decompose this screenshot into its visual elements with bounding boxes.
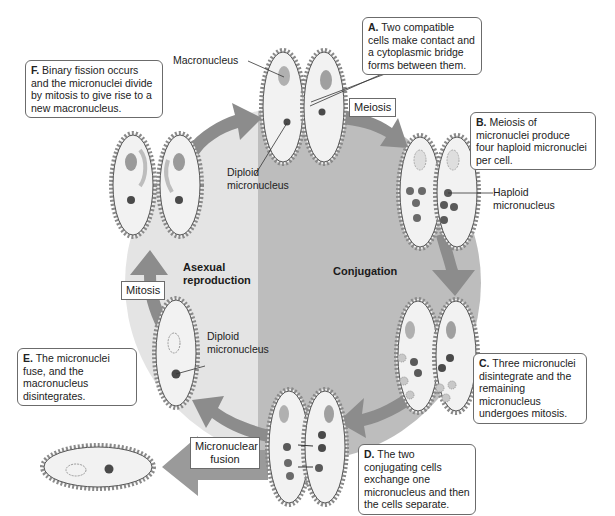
- tag-line: fusion: [195, 453, 255, 466]
- macronucleus: [173, 153, 185, 171]
- cell-separated: [42, 445, 154, 489]
- micronucleus: [175, 196, 183, 204]
- region-label-asexual-line1: Asexual: [183, 261, 251, 274]
- step-letter: F.: [31, 64, 39, 76]
- micronucleus: [284, 119, 291, 126]
- tag-mitosis: Mitosis: [121, 281, 165, 300]
- step-letter: B.: [476, 116, 487, 128]
- label-line: Diploid: [207, 330, 269, 343]
- callout-c: C. Three micronuclei disintegrate and th…: [473, 353, 587, 424]
- step-letter: E.: [23, 352, 33, 364]
- label-line: Diploid: [227, 166, 289, 179]
- callout-b: B. Meiosis of micronuclei produce four h…: [470, 112, 596, 170]
- label-diploid-micronucleus-left: Diploid micronucleus: [207, 330, 269, 355]
- tag-line: Micronuclear: [195, 440, 255, 453]
- cell-e: [154, 298, 198, 408]
- macronucleus: [125, 153, 137, 171]
- macronucleus: [320, 70, 332, 90]
- label-line: Haploid: [493, 186, 555, 199]
- label-macronucleus: Macronucleus: [173, 54, 238, 67]
- step-letter: C.: [479, 357, 490, 369]
- label-diploid-micronucleus-top: Diploid micronucleus: [227, 166, 289, 191]
- callout-f: F. Binary fission occurs and the micronu…: [25, 60, 163, 118]
- step-letter: D.: [364, 448, 375, 460]
- label-line: micronucleus: [493, 199, 555, 212]
- callout-d: D. The two conjugating cells exchange on…: [358, 444, 476, 515]
- step-text: Binary fission occurs and the micronucle…: [31, 64, 152, 114]
- callout-e: E. The micronuclei fuse, and the macronu…: [17, 348, 137, 406]
- macronucleus: [278, 66, 290, 86]
- label-haploid-micronucleus: Haploid micronucleus: [493, 186, 555, 211]
- label-line: micronucleus: [207, 343, 269, 356]
- micronucleus: [127, 196, 135, 204]
- step-text: Meiosis of micronuclei produce four hapl…: [476, 116, 587, 166]
- callout-a: A. Two compatible cells make contact and…: [362, 17, 482, 75]
- step-letter: A.: [368, 21, 379, 33]
- step-text: Three micronuclei disintegrate and the r…: [479, 357, 576, 419]
- tag-meiosis: Meiosis: [349, 98, 396, 117]
- region-label-asexual-line2: reproduction: [183, 274, 251, 287]
- region-label-conjugation: Conjugation: [333, 265, 397, 278]
- step-text: Two compatible cells make contact and a …: [368, 21, 475, 71]
- step-text: The micronuclei fuse, and the macronucle…: [23, 352, 110, 402]
- region-label-asexual: Asexual reproduction: [183, 261, 251, 287]
- label-line: micronucleus: [227, 179, 289, 192]
- step-text: The two conjugating cells exchange one m…: [364, 448, 470, 510]
- micronucleus: [319, 109, 326, 116]
- tag-micronuclear-fusion: Micronuclear fusion: [190, 437, 260, 469]
